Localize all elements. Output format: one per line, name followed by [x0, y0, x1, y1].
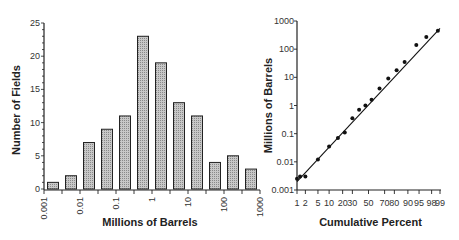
x-tick-label: 90: [403, 198, 413, 208]
data-point: [395, 68, 399, 72]
histogram-bar: [246, 169, 257, 189]
x-tick-label: 0.1: [111, 197, 121, 210]
x-tick-label: 1000: [255, 197, 265, 217]
x-tick-label: 1: [294, 198, 299, 208]
x-tick-label: 10: [183, 197, 193, 207]
y-tick-label: 0: [35, 184, 40, 194]
data-point: [350, 116, 354, 120]
histogram-bar: [48, 182, 59, 189]
x-tick-label: 20: [338, 198, 348, 208]
data-point: [298, 175, 302, 179]
histogram-bar: [66, 176, 77, 189]
data-point: [436, 29, 440, 33]
histogram-bar: [102, 129, 113, 189]
y-tick-label: 20: [30, 51, 40, 61]
y-tick-label: 0.01: [276, 157, 294, 167]
x-tick-label: 80: [389, 198, 399, 208]
x-axis-title: Cumulative Percent: [319, 216, 422, 228]
data-point: [414, 43, 418, 47]
x-tick-label: 50: [363, 198, 373, 208]
y-tick-label: 25: [30, 18, 40, 28]
data-point: [336, 136, 340, 140]
charts-figure: 05101520250.0010.010.11101001000Millions…: [0, 0, 459, 240]
histogram-bar: [192, 116, 203, 189]
y-tick-label: 15: [30, 84, 40, 94]
y-tick-label: 5: [35, 151, 40, 161]
data-point: [363, 104, 367, 108]
probability-plot-chart: 0.0010.010.11101001000125102030507080909…: [262, 16, 445, 228]
histogram-bar: [210, 162, 221, 189]
y-tick-label: 10: [284, 72, 294, 82]
data-point: [327, 145, 331, 149]
x-tick-label: 0.001: [39, 197, 49, 220]
x-tick-label: 70: [380, 198, 390, 208]
data-point: [424, 35, 428, 39]
y-axis-title: Millions of Barrels: [262, 58, 274, 153]
y-tick-label: 1: [289, 101, 294, 111]
histogram-bar: [156, 63, 167, 189]
y-tick-label: 0.1: [281, 129, 294, 139]
histogram-bar: [138, 36, 149, 189]
data-point: [378, 87, 382, 91]
x-tick-label: 0.01: [75, 197, 85, 215]
y-tick-label: 1000: [274, 16, 294, 26]
data-point: [403, 60, 407, 64]
histogram-bar: [174, 103, 185, 189]
data-point: [357, 108, 361, 112]
y-tick-label: 100: [279, 44, 294, 54]
x-tick-label: 99: [435, 198, 445, 208]
data-point: [316, 158, 320, 162]
y-tick-label: 0.001: [271, 185, 294, 195]
y-tick-label: 10: [30, 118, 40, 128]
x-tick-label: 30: [347, 198, 357, 208]
data-point: [386, 77, 390, 81]
x-tick-label: 2: [303, 198, 308, 208]
y-axis-title: Number of Fields: [10, 65, 22, 155]
x-tick-label: 100: [219, 197, 229, 212]
data-point: [303, 175, 307, 179]
histogram-bar: [84, 143, 95, 189]
x-tick-label: 10: [324, 198, 334, 208]
data-point: [370, 98, 374, 102]
histogram-bar: [120, 116, 131, 189]
x-axis-title: Millions of Barrels: [102, 216, 197, 228]
x-tick-label: 95: [414, 198, 424, 208]
x-tick-label: 5: [315, 198, 320, 208]
x-tick-label: 1: [147, 197, 157, 202]
histogram-bar: [228, 156, 239, 189]
histogram-chart: 05101520250.0010.010.11101001000Millions…: [10, 18, 265, 228]
data-point: [343, 131, 347, 135]
